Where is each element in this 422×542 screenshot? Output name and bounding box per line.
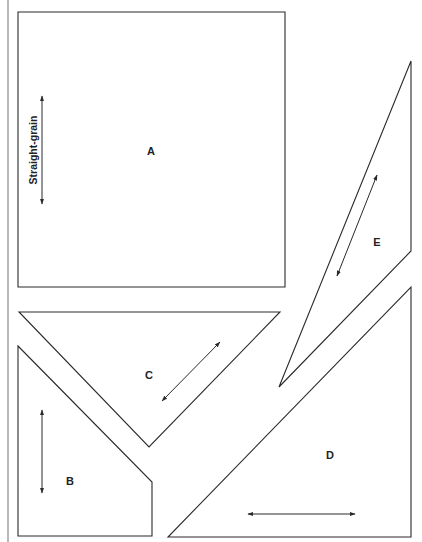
piece-d-label: D	[326, 449, 334, 461]
piece-a-label: A	[147, 145, 155, 157]
piece-b-label: B	[66, 475, 74, 487]
piece-a: Straight-grain A	[18, 12, 285, 287]
piece-c-label: C	[145, 369, 153, 381]
straight-grain-label: Straight-grain	[27, 116, 39, 185]
pattern-diagram: Straight-grain A B C D E	[0, 0, 422, 542]
piece-e-label: E	[373, 236, 380, 248]
